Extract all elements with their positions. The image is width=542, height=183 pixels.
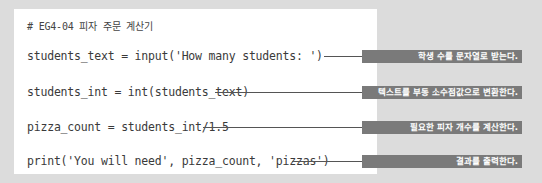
connector-line-2 (215, 92, 362, 93)
annotation-label-2: 텍스트를 부동 소수점값으로 변환한다. (362, 86, 522, 99)
connector-line-4 (292, 161, 362, 162)
annotation-label-3: 필요한 피자 개수를 계산한다. (362, 121, 522, 134)
annotation-label-1: 학생 수를 문자열로 받는다. (362, 50, 522, 63)
connector-line-3 (203, 127, 362, 128)
code-comment: # EG4-04 피자 주문 계산기 (27, 18, 153, 33)
annotation-label-4: 결과를 출력한다. (362, 155, 522, 168)
connector-line-1 (324, 56, 362, 57)
code-line-3: pizza_count = students_int/1.5 (27, 120, 229, 134)
code-line-4: print('You will need', pizza_count, 'piz… (27, 154, 330, 168)
code-line-1: students_text = input('How many students… (27, 49, 323, 63)
